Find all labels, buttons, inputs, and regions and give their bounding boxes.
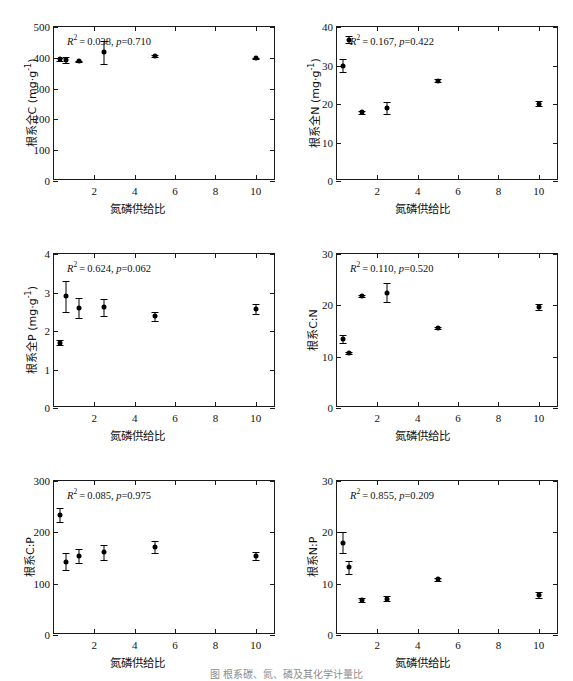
data-point xyxy=(347,37,352,42)
x-tick xyxy=(135,629,136,634)
y-tick xyxy=(553,181,558,182)
x-tick xyxy=(135,175,136,180)
y-tick-label: 0 xyxy=(28,176,50,187)
x-tick xyxy=(377,629,378,634)
stats-annotation: R2 = 0.167, p=0.422 xyxy=(350,34,434,47)
x-tick xyxy=(418,629,419,634)
x-tick xyxy=(94,480,95,485)
y-tick xyxy=(553,481,558,482)
plot-area-root-total-c: 2468100100200300400500R2 = 0.038, p=0.71… xyxy=(53,26,275,180)
data-point xyxy=(58,340,63,345)
error-bar-cap xyxy=(151,553,158,554)
error-bar-cap xyxy=(346,561,353,562)
x-tick xyxy=(94,26,95,31)
error-bar-cap xyxy=(384,302,391,303)
x-tick xyxy=(94,175,95,180)
y-tick xyxy=(270,181,275,182)
y-tick xyxy=(270,254,275,255)
x-tick xyxy=(135,402,136,407)
y-tick xyxy=(270,481,275,482)
x-tick xyxy=(377,480,378,485)
error-bar-cap xyxy=(535,598,542,599)
y-tick xyxy=(270,89,275,90)
y-tick xyxy=(53,119,58,120)
data-point xyxy=(253,306,258,311)
y-tick xyxy=(336,27,341,28)
x-tick xyxy=(458,480,459,485)
data-point xyxy=(152,314,157,319)
y-tick xyxy=(553,357,558,358)
x-tick xyxy=(135,253,136,258)
x-tick xyxy=(135,26,136,31)
plot-area-root-cn-ratio: 2468100102030R2 = 0.110, p=0.520 xyxy=(336,253,558,407)
y-tick xyxy=(553,532,558,533)
y-tick xyxy=(553,27,558,28)
plot-area-root-total-p: 24681001234R2 = 0.624, p=0.062 xyxy=(53,253,275,407)
x-tick xyxy=(215,480,216,485)
y-axis-title: 根系全N (mg·g-1) xyxy=(308,58,321,147)
data-point xyxy=(536,592,541,597)
error-bar-cap xyxy=(151,321,158,322)
y-tick xyxy=(553,408,558,409)
x-tick-label: 4 xyxy=(415,186,421,197)
panel-root-cn-ratio: 2468100102030R2 = 0.110, p=0.520根系C:N氮磷供… xyxy=(286,227,573,454)
y-tick-label: 0 xyxy=(311,630,333,641)
y-tick-label: 300 xyxy=(28,476,50,487)
y-tick xyxy=(336,408,341,409)
x-tick xyxy=(418,26,419,31)
data-point xyxy=(435,326,440,331)
error-bar-cap xyxy=(252,304,259,305)
x-tick xyxy=(498,629,499,634)
y-tick xyxy=(53,635,58,636)
x-tick-label: 4 xyxy=(415,640,421,651)
error-bar-cap xyxy=(57,508,64,509)
y-tick xyxy=(336,254,341,255)
x-tick xyxy=(135,480,136,485)
error-bar-cap xyxy=(340,72,347,73)
y-tick xyxy=(53,89,58,90)
y-tick xyxy=(53,293,58,294)
y-tick xyxy=(336,481,341,482)
panel-root-total-p: 24681001234R2 = 0.624, p=0.062根系全P (mg·g… xyxy=(0,227,286,454)
stats-annotation: R2 = 0.110, p=0.520 xyxy=(350,261,434,274)
x-tick xyxy=(256,402,257,407)
y-tick xyxy=(270,150,275,151)
x-tick-label: 10 xyxy=(533,640,544,651)
data-point xyxy=(360,597,365,602)
data-point xyxy=(64,559,69,564)
error-bar-cap xyxy=(340,343,347,344)
x-tick-label: 4 xyxy=(415,413,421,424)
error-bar-cap xyxy=(76,549,83,550)
x-tick xyxy=(175,480,176,485)
y-tick-label: 100 xyxy=(28,578,50,589)
data-point xyxy=(64,57,69,62)
x-tick-label: 4 xyxy=(132,413,138,424)
x-tick-label: 2 xyxy=(375,640,381,651)
x-tick xyxy=(256,175,257,180)
error-bar-cap xyxy=(101,560,108,561)
y-tick xyxy=(270,532,275,533)
y-tick xyxy=(270,58,275,59)
data-point xyxy=(347,350,352,355)
y-tick xyxy=(53,532,58,533)
x-tick xyxy=(215,26,216,31)
error-bar-cap xyxy=(57,522,64,523)
y-tick xyxy=(53,481,58,482)
y-tick xyxy=(53,181,58,182)
x-tick xyxy=(458,253,459,258)
error-bar-cap xyxy=(384,102,391,103)
x-tick xyxy=(175,402,176,407)
x-tick xyxy=(377,253,378,258)
y-tick xyxy=(270,408,275,409)
data-point xyxy=(360,294,365,299)
data-point xyxy=(341,337,346,342)
y-tick xyxy=(53,584,58,585)
error-bar-cap xyxy=(252,314,259,315)
y-tick xyxy=(53,150,58,151)
data-point xyxy=(435,577,440,582)
data-point xyxy=(253,553,258,558)
x-tick xyxy=(418,402,419,407)
figure-root-stoichiometry: 2468100100200300400500R2 = 0.038, p=0.71… xyxy=(0,0,573,681)
data-point xyxy=(152,545,157,550)
error-bar-cap xyxy=(384,114,391,115)
